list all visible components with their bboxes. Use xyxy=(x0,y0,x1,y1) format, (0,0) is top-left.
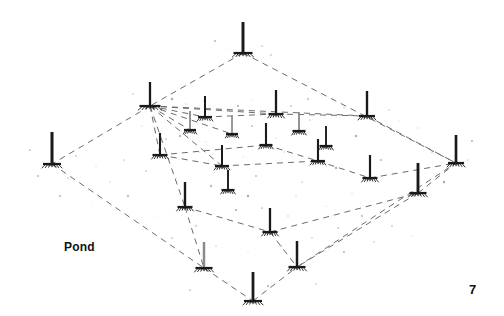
sensor-pole-node-r2-b xyxy=(225,116,239,138)
ground-speckle xyxy=(391,225,393,227)
ground-speckle xyxy=(252,100,253,101)
pole-post xyxy=(369,155,371,178)
sensor-pole-node-right-vertex xyxy=(447,135,465,167)
pole-post xyxy=(204,96,206,117)
sensor-pole-node-r3-e xyxy=(361,155,378,182)
network-link-node-r3-d-to-node-r3-e xyxy=(318,161,370,178)
pole-root-stroke xyxy=(282,115,285,119)
ground-speckle xyxy=(326,206,327,207)
ground-speckle xyxy=(248,252,249,253)
ground-speckle xyxy=(355,135,357,137)
pole-post xyxy=(417,163,420,193)
ground-speckle xyxy=(335,167,337,169)
pole-root-stroke xyxy=(138,107,142,111)
page-number: 7 xyxy=(469,282,476,297)
sensor-pole-hub-left-upper xyxy=(138,82,162,110)
pole-root-stroke xyxy=(303,268,306,272)
ground-speckle xyxy=(261,45,263,47)
ground-speckle xyxy=(189,289,191,291)
sensor-pole-node-r3-d xyxy=(310,139,326,165)
network-link-node-r4-c-to-node-right-mid xyxy=(270,193,418,232)
ground-speckle xyxy=(373,241,374,242)
pole-root-stroke xyxy=(232,54,236,58)
pole-post xyxy=(317,139,319,161)
pole-root-stroke xyxy=(42,165,46,169)
pole-post xyxy=(366,91,368,116)
sensor-pole-node-r2-c xyxy=(292,112,307,135)
network-link-hub-left-upper-to-node-r1-c xyxy=(150,106,367,116)
ground-speckle xyxy=(343,107,344,108)
network-link-node-right-mid-to-node-bottom-right xyxy=(297,193,418,267)
pole-root-stroke xyxy=(462,164,465,168)
network-link-hub-left-upper-to-node-r1-b xyxy=(150,106,276,114)
ground-speckle xyxy=(215,245,216,246)
pole-post xyxy=(252,272,255,301)
ground-speckle xyxy=(386,200,387,201)
sensor-pole-node-r4-b xyxy=(221,170,236,194)
ground-speckle xyxy=(295,195,296,196)
ground-speckle xyxy=(255,175,257,177)
ground-speckle xyxy=(67,177,68,178)
sensor-pole-node-bottom-left xyxy=(194,242,214,272)
ground-speckle xyxy=(270,54,272,56)
pole-root-stroke xyxy=(151,156,154,160)
network-link-node-r3-e-to-node-right-vertex xyxy=(370,163,456,178)
pole-post xyxy=(203,242,205,268)
pole-root-stroke xyxy=(361,179,364,183)
ground-speckle xyxy=(309,119,311,121)
pole-root-stroke xyxy=(166,156,169,160)
sensor-pole-node-left-vertex xyxy=(42,132,63,168)
ground-speckle xyxy=(267,285,269,287)
network-link-node-r4-a-to-node-r4-c xyxy=(185,207,270,232)
pole-root-stroke xyxy=(424,194,427,198)
ground-speckle xyxy=(337,227,339,229)
ground-speckle xyxy=(179,135,181,137)
network-link-node-r1-a-to-node-r1-b xyxy=(205,114,276,117)
ground-speckle xyxy=(127,195,129,197)
ground-speckle xyxy=(388,109,390,111)
network-link-node-r3-a-to-node-r3-c xyxy=(160,145,266,155)
network-diagram-canvas xyxy=(0,0,504,316)
pole-post xyxy=(325,126,327,146)
pole-post xyxy=(455,135,458,163)
ground-speckle xyxy=(287,215,288,216)
pole-post xyxy=(189,111,191,130)
ground-speckle xyxy=(235,209,237,211)
network-link-node-r4-c-to-node-bottom-right xyxy=(270,232,297,267)
ground-speckle-layer xyxy=(29,40,473,291)
ground-speckle xyxy=(176,178,177,179)
ground-speckle xyxy=(59,195,61,197)
ground-speckle xyxy=(227,281,229,283)
network-link-layer xyxy=(52,53,456,301)
ground-speckle xyxy=(120,86,121,87)
ground-speckle xyxy=(92,206,93,207)
sensor-pole-apex-top xyxy=(232,22,254,57)
ground-speckle xyxy=(247,195,249,197)
pole-post xyxy=(275,90,277,114)
pole-root-stroke xyxy=(176,208,179,212)
pole-post xyxy=(184,182,186,207)
pole-post xyxy=(149,82,151,106)
ground-speckle xyxy=(242,156,243,157)
sensor-pole-node-r3-a xyxy=(151,133,168,159)
pole-root-stroke xyxy=(243,302,247,306)
sensor-pole-node-r1-b xyxy=(267,90,284,118)
ground-speckle xyxy=(195,225,197,227)
ground-speckle xyxy=(315,283,316,284)
pole-post xyxy=(159,133,161,155)
pole-post xyxy=(242,22,245,53)
pole-post xyxy=(227,170,229,190)
pole-post xyxy=(296,241,298,267)
sensor-pole-layer xyxy=(42,22,466,305)
ground-speckle xyxy=(471,140,473,142)
pole-root-stroke xyxy=(261,233,264,237)
ground-speckle xyxy=(301,181,303,183)
ground-speckle xyxy=(290,105,292,107)
ground-speckle xyxy=(399,121,400,122)
ground-speckle xyxy=(343,251,345,253)
ground-speckle xyxy=(443,181,445,183)
pole-post xyxy=(269,208,271,232)
ground-speckle xyxy=(145,170,146,171)
ground-speckle xyxy=(210,185,212,187)
ground-speckle xyxy=(37,175,39,177)
